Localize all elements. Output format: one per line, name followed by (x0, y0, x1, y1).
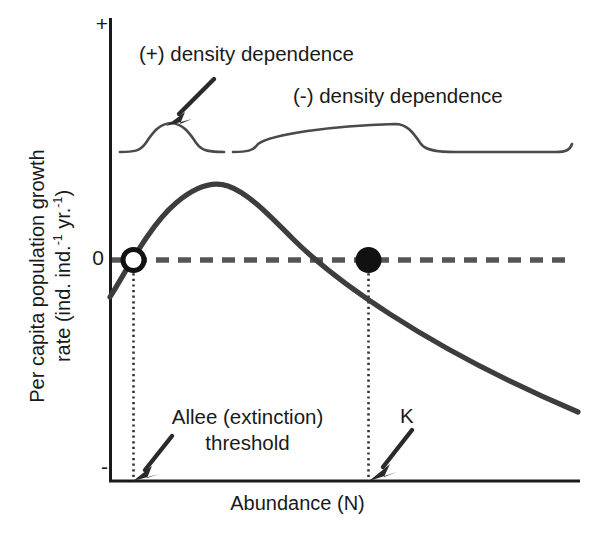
negative-density-brace (233, 124, 572, 152)
y-axis-title-exponent-1: -1 (51, 234, 65, 245)
y-axis-title-exponent-2: -1 (51, 197, 65, 208)
x-axis-title: Abundance (N) (0, 492, 595, 515)
allee-threshold-label: Allee (extinction) threshold (140, 404, 355, 456)
positive-density-brace (120, 123, 224, 152)
y-axis-title-line2: rate (ind. ind.-1 yr.-1) (50, 66, 76, 486)
y-tick-label-zero: 0 (84, 246, 104, 270)
y-tick-label-negative: - (90, 455, 108, 479)
allee-threshold-point (123, 250, 144, 271)
carrying-capacity-point (356, 247, 382, 273)
y-axis-title: Per capita population growth rate (ind. … (0, 0, 90, 540)
positive-density-arrow (166, 79, 214, 126)
growth-rate-curve (110, 184, 578, 412)
allee-threshold-label-line1: Allee (extinction) (172, 405, 324, 428)
positive-density-dependence-label: (+) density dependence (139, 42, 354, 66)
carrying-capacity-arrow (369, 430, 412, 481)
y-tick-label-positive: + (90, 12, 108, 36)
chart-figure: Per capita population growth rate (ind. … (0, 0, 595, 540)
negative-density-dependence-label: (-) density dependence (293, 84, 503, 108)
allee-threshold-label-line2: threshold (140, 430, 355, 456)
carrying-capacity-label: K (400, 404, 414, 428)
y-axis-title-line1: Per capita population growth (26, 149, 48, 403)
